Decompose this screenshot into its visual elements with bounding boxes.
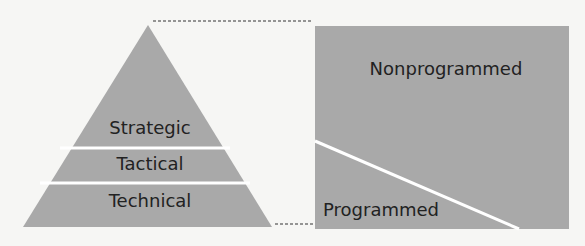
programmed-label: Programmed xyxy=(323,199,439,220)
nonprogrammed-label: Nonprogrammed xyxy=(370,58,523,79)
level-technical-label: Technical xyxy=(108,190,192,211)
level-strategic-label: Strategic xyxy=(109,117,190,138)
level-tactical-label: Tactical xyxy=(116,153,184,174)
management-decision-diagram: Strategic Tactical Technical Nonprogramm… xyxy=(0,0,585,246)
